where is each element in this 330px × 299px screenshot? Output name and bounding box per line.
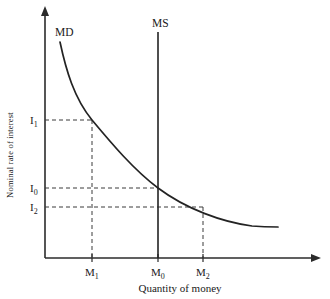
x-axis-arrow-icon bbox=[311, 254, 321, 262]
y-tick-label-i2: I2 bbox=[30, 201, 38, 216]
x-tick-label-m1: M1 bbox=[85, 266, 99, 281]
axes-group bbox=[41, 6, 321, 262]
x-tick-label-m0-main: M bbox=[151, 266, 161, 278]
guide-lines-group bbox=[45, 120, 203, 258]
x-tick-label-m0: M0 bbox=[151, 266, 165, 281]
y-axis-title: Nominal rate of interest bbox=[5, 112, 15, 198]
md-curve-label: MD bbox=[55, 26, 74, 38]
x-tick-label-m1-main: M bbox=[85, 266, 95, 278]
y-tick-label-i2-sub: 2 bbox=[34, 207, 38, 216]
x-tick-label-m2-sub: 2 bbox=[206, 272, 210, 281]
x-tick-label-m0-sub: 0 bbox=[161, 272, 165, 281]
x-tick-label-m1-sub: 1 bbox=[95, 272, 99, 281]
x-tick-labels-group: M1 M0 M2 bbox=[85, 266, 210, 281]
y-tick-label-i1: I1 bbox=[30, 114, 38, 129]
money-demand-curve bbox=[60, 42, 278, 227]
x-tick-label-m2: M2 bbox=[196, 266, 210, 281]
y-tick-label-i1-sub: 1 bbox=[34, 120, 38, 129]
x-tick-label-m2-main: M bbox=[196, 266, 206, 278]
y-axis-arrow-icon bbox=[41, 6, 49, 16]
x-axis-title: Quantity of money bbox=[138, 282, 222, 294]
money-market-figure: MD MS I1 I0 I2 M1 M0 M2 bbox=[0, 0, 330, 299]
y-tick-label-i0: I0 bbox=[30, 182, 38, 197]
y-tick-labels-group: I1 I0 I2 bbox=[30, 114, 38, 216]
y-tick-label-i0-sub: 0 bbox=[34, 188, 38, 197]
chart-canvas: MD MS I1 I0 I2 M1 M0 M2 bbox=[0, 0, 330, 299]
ms-curve-label: MS bbox=[152, 17, 169, 29]
